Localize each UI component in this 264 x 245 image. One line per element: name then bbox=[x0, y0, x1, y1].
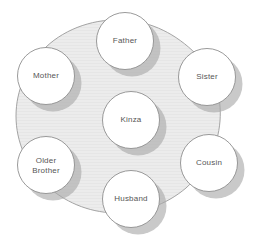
diagram-canvas bbox=[0, 0, 264, 245]
node-circle-sister[interactable] bbox=[179, 49, 236, 106]
node-circle-kinza[interactable] bbox=[103, 92, 160, 149]
node-circle-father[interactable] bbox=[97, 13, 154, 70]
node-circle-older-brother[interactable] bbox=[18, 137, 75, 194]
family-relationship-diagram: Father Sister Cousin Husband Older Broth… bbox=[0, 0, 264, 245]
node-circle-husband[interactable] bbox=[103, 171, 160, 228]
node-circle-cousin[interactable] bbox=[181, 135, 238, 192]
node-circle-mother[interactable] bbox=[18, 48, 75, 105]
